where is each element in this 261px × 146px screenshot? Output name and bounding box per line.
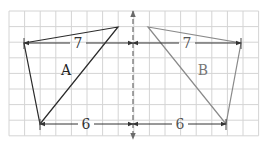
shape-b-label: B [198, 62, 208, 78]
bottom-left-length-label: 6 [82, 116, 91, 132]
top-right-length-label: 7 [183, 35, 192, 51]
shape-a-label: A [60, 62, 72, 78]
reflection-diagram: A B 7 6 7 6 [0, 0, 261, 146]
bottom-right-length-label: 6 [176, 116, 185, 132]
top-left-length-label: 7 [74, 35, 83, 51]
